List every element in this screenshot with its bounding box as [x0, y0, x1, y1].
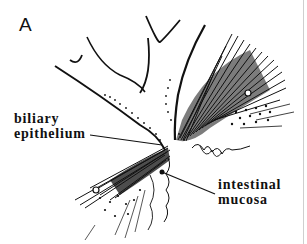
- label-intestinal-mucosa: intestinal mucosa: [218, 177, 281, 207]
- intestinal-pointer-dot: [160, 170, 165, 175]
- intestinal-leader-line: [162, 172, 215, 194]
- biliary-leader-line: [90, 135, 162, 145]
- label-intestinal-line2: mucosa: [218, 192, 281, 207]
- panel-letter: A: [19, 14, 32, 36]
- label-biliary-epithelium: biliary epithelium: [14, 111, 86, 141]
- duct-mark: [70, 55, 82, 62]
- label-intestinal-line1: intestinal: [218, 177, 281, 192]
- figure-border: [303, 0, 304, 244]
- label-biliary-line1: biliary: [14, 111, 86, 126]
- figure-panel-a: A biliary epithelium intestinal mucosa: [0, 0, 307, 244]
- label-biliary-line2: epithelium: [14, 126, 86, 141]
